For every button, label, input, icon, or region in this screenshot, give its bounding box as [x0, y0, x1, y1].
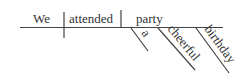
- verb-word: attended: [69, 11, 114, 26]
- modifier-word-a: a: [139, 26, 155, 39]
- sentence-diagram: We attended party a cheerful birthday: [0, 0, 244, 75]
- subject-word: We: [33, 11, 50, 26]
- object-word: party: [136, 11, 163, 26]
